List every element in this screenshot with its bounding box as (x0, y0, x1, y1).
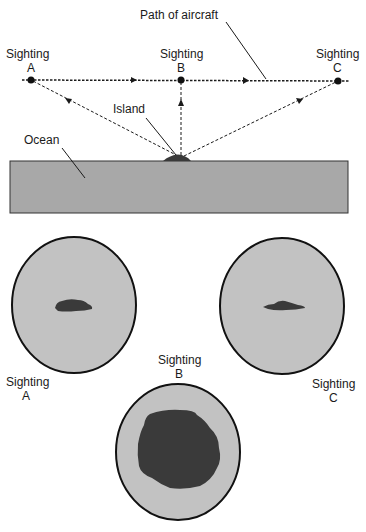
ocean-label: Ocean (24, 133, 59, 147)
view-sighting-a (12, 237, 136, 373)
view-a-title: Sighting (6, 375, 49, 389)
sighting-b-letter: B (177, 61, 185, 75)
view-c-letter: C (329, 391, 338, 405)
flight-path (22, 77, 350, 84)
sighting-b-point (178, 77, 185, 84)
sighting-c-letter: C (333, 61, 342, 75)
sighting-a-title: Sighting (6, 47, 49, 61)
island-leader-line (146, 118, 176, 155)
island-label: Island (113, 102, 145, 116)
view-c-title: Sighting (312, 377, 355, 391)
arrow-icon (178, 99, 184, 106)
sighting-b-title: Sighting (160, 47, 203, 61)
view-b-letter: B (175, 367, 183, 381)
sighting-a-letter: A (27, 61, 35, 75)
arrow-icon (131, 77, 137, 83)
island (163, 155, 191, 162)
arrow-icon (243, 77, 249, 84)
path-of-aircraft-label: Path of aircraft (140, 8, 219, 22)
sighting-c-point (335, 78, 342, 85)
view-b-title: Sighting (158, 353, 201, 367)
path-leader-line (226, 22, 266, 79)
view-a-letter: A (22, 389, 30, 403)
sighting-c-title: Sighting (316, 47, 359, 61)
ocean (10, 161, 348, 213)
sightings-diagram: Path of aircraft Sighting A Sighting B S… (0, 0, 366, 532)
sighting-a-point (28, 77, 35, 84)
sight-lines (31, 80, 338, 156)
view-sighting-c (220, 238, 344, 374)
view-sighting-b (116, 384, 240, 520)
